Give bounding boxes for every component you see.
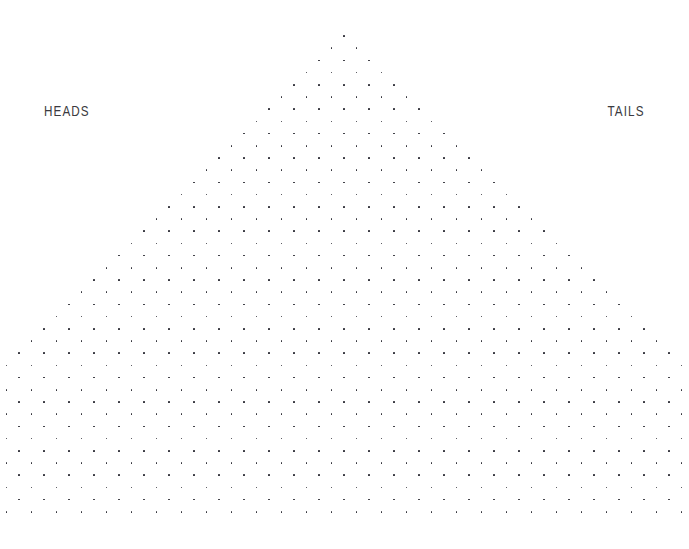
peg-dot [581,316,583,318]
peg-dot [156,365,158,367]
peg-dot [631,389,633,391]
peg-dot [218,157,220,159]
peg-dot [43,499,45,501]
peg-dot [318,108,320,110]
peg-dot [356,365,358,367]
peg-dot [131,243,133,245]
peg-dot [231,365,233,367]
peg-dot [456,413,458,415]
peg-dot [556,340,558,342]
peg-dot [456,389,458,391]
peg-dot [431,389,433,391]
peg-dot [668,499,670,501]
peg-dot [243,450,245,452]
peg-dot [281,487,283,489]
peg-dot [356,487,358,489]
peg-dot [281,438,283,440]
peg-dot [168,279,170,281]
peg-dot [368,450,370,452]
peg-dot [431,413,433,415]
peg-dot [306,72,308,74]
peg-dot [268,182,270,184]
peg-dot [293,426,295,428]
peg-dot [581,438,583,440]
peg-dot [93,426,95,428]
peg-dot [256,462,258,464]
peg-dot [643,450,645,452]
peg-dot [431,340,433,342]
peg-dot [418,499,420,501]
peg-dot [406,121,408,123]
peg-dot [618,499,620,501]
peg-dot [418,108,420,110]
peg-dot [431,145,433,147]
peg-dot [293,328,295,330]
peg-dot [81,389,83,391]
peg-dot [281,462,283,464]
peg-dot [43,328,45,330]
peg-dot [206,413,208,415]
peg-dot [143,255,145,257]
peg-dot [443,206,445,208]
peg-dot [418,474,420,476]
peg-dot [456,340,458,342]
peg-dot [481,365,483,367]
peg-dot [281,194,283,196]
peg-dot [481,218,483,220]
peg-dot [518,328,520,330]
peg-dot [493,450,495,452]
peg-dot [381,291,383,293]
peg-dot [181,462,183,464]
peg-dot [381,413,383,415]
peg-dot [556,365,558,367]
peg-dot [81,438,83,440]
peg-dot [293,157,295,159]
peg-dot [393,230,395,232]
peg-dot [131,267,133,269]
peg-dot [43,352,45,354]
peg-dot [68,328,70,330]
peg-dot [218,206,220,208]
peg-dot [543,328,545,330]
peg-dot [393,206,395,208]
peg-dot [418,255,420,257]
peg-dot [493,377,495,379]
peg-dot [331,438,333,440]
peg-dot [381,511,383,513]
peg-dot [343,377,345,379]
peg-dot [481,169,483,171]
peg-dot [318,84,320,86]
peg-dot [143,352,145,354]
peg-dot [206,267,208,269]
peg-dot [618,352,620,354]
peg-dot [306,389,308,391]
peg-dot [243,352,245,354]
peg-lattice [0,0,689,549]
peg-dot [543,352,545,354]
peg-dot [443,230,445,232]
peg-dot [143,401,145,403]
peg-dot [318,157,320,159]
peg-dot [168,499,170,501]
peg-dot [193,401,195,403]
peg-dot [256,194,258,196]
peg-dot [481,316,483,318]
peg-dot [181,291,183,293]
peg-dot [468,182,470,184]
peg-dot [293,352,295,354]
peg-dot [418,304,420,306]
peg-dot [468,426,470,428]
peg-dot [656,365,658,367]
peg-dot [343,499,345,501]
peg-dot [593,279,595,281]
peg-dot [518,426,520,428]
peg-dot [118,450,120,452]
peg-dot [118,304,120,306]
peg-dot [631,413,633,415]
peg-dot [506,218,508,220]
peg-dot [406,462,408,464]
peg-dot [256,218,258,220]
peg-dot [268,108,270,110]
peg-dot [81,291,83,293]
peg-dot [256,438,258,440]
